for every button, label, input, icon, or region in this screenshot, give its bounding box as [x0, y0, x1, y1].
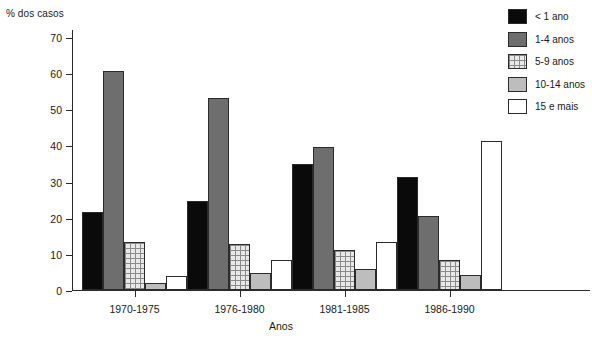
bar: [271, 260, 292, 290]
legend-swatch: [508, 54, 527, 69]
bar: [439, 260, 460, 290]
legend-swatch: [508, 32, 527, 47]
legend: < 1 ano1-4 anos5-9 anos10-14 anos15 e ma…: [508, 8, 592, 121]
y-tick-label: 50: [50, 105, 62, 116]
bar: [187, 201, 208, 290]
bar: [481, 141, 502, 290]
bar: [145, 283, 166, 290]
x-tick: [345, 291, 346, 297]
legend-item: 10-14 anos: [508, 76, 592, 93]
legend-label: 5-9 anos: [535, 56, 574, 67]
y-tick-label: 30: [50, 177, 62, 188]
legend-label: 10-14 anos: [535, 79, 585, 90]
baseline-extension: [72, 290, 590, 291]
legend-item: 5-9 anos: [508, 53, 592, 70]
x-tick: [450, 291, 451, 297]
y-tick-label: 0: [56, 286, 62, 297]
y-tick-label: 40: [50, 141, 62, 152]
bar: [334, 250, 355, 290]
y-tick: [66, 291, 72, 292]
bar-groups: [72, 30, 490, 290]
x-tick-label: 1976-1980: [214, 303, 264, 315]
bar-chart: % dos casos 010203040506070 1970-1975197…: [0, 0, 592, 340]
x-tick-label: 1986-1990: [424, 303, 474, 315]
y-tick-label: 10: [50, 250, 62, 261]
legend-swatch: [508, 9, 527, 24]
legend-label: 1-4 anos: [535, 34, 574, 45]
legend-swatch: [508, 77, 527, 92]
legend-label: < 1 ano: [535, 11, 569, 22]
bar: [292, 164, 313, 291]
bar: [355, 269, 376, 290]
bar: [124, 242, 145, 290]
legend-label: 15 e mais: [535, 101, 578, 112]
bar: [166, 276, 187, 290]
x-tick-label: 1970-1975: [109, 303, 159, 315]
bar: [250, 273, 271, 290]
legend-item: 15 e mais: [508, 98, 592, 115]
x-axis-title: Anos: [269, 320, 293, 332]
bar: [397, 177, 418, 290]
bar: [82, 212, 103, 290]
x-tick-label: 1981-1985: [319, 303, 369, 315]
bar-group: [292, 30, 397, 290]
legend-item: 1-4 anos: [508, 31, 592, 48]
bar: [460, 275, 481, 290]
bar: [418, 216, 439, 290]
bar-group: [397, 30, 502, 290]
bar-group: [187, 30, 292, 290]
bar: [376, 242, 397, 290]
bar-group: [82, 30, 187, 290]
y-tick-label: 70: [50, 33, 62, 44]
y-tick-label: 60: [50, 69, 62, 80]
bar: [103, 71, 124, 290]
bar: [313, 147, 334, 290]
bar: [229, 244, 250, 290]
legend-item: < 1 ano: [508, 8, 592, 25]
plot-area: 010203040506070: [72, 30, 490, 291]
bar: [208, 98, 229, 290]
legend-swatch: [508, 99, 527, 114]
y-tick-label: 20: [50, 213, 62, 224]
x-tick: [135, 291, 136, 297]
y-axis-title: % dos casos: [6, 8, 64, 19]
x-tick: [240, 291, 241, 297]
